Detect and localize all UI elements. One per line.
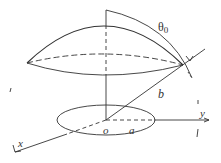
spherical-cap-diagram: θ0 b o a x y (0, 0, 221, 163)
tick-right-bottom (197, 129, 198, 137)
tick-left (10, 88, 11, 92)
rim-front (27, 63, 183, 75)
b-label: b (158, 87, 164, 101)
theta-label: θ0 (158, 20, 169, 35)
rim-back (27, 54, 183, 65)
line-b (106, 49, 205, 120)
origin-label: o (103, 124, 109, 136)
x-label: x (17, 137, 23, 149)
x-axis-hidden (67, 120, 106, 134)
a-label: a (129, 124, 135, 136)
y-label: y (199, 107, 205, 119)
